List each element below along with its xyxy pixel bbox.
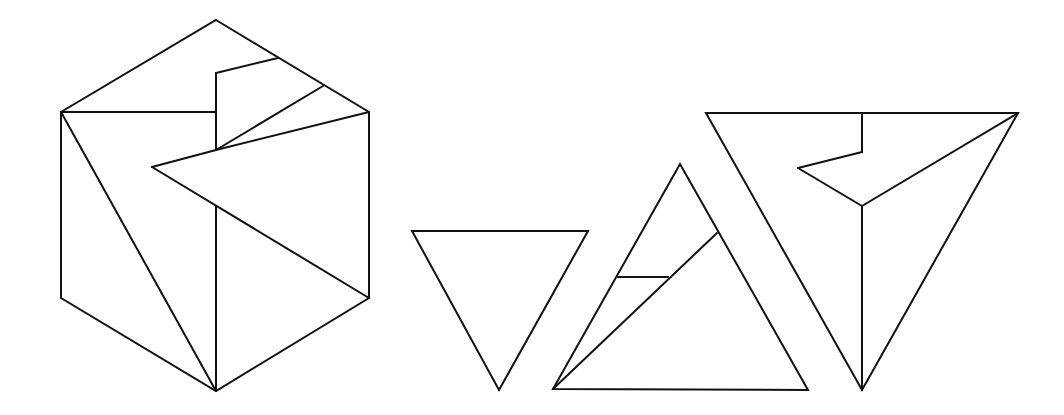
large-inverted-triangle-cut-line: [862, 113, 1018, 206]
hexagon-cut-line: [216, 86, 323, 150]
hexagon-cut-line: [216, 112, 369, 150]
hexagon-cut-line: [152, 167, 369, 298]
hexagon-cut-line: [216, 58, 278, 73]
hexagon-cut-line: [152, 150, 216, 167]
small-inverted-triangle-figure: [412, 231, 588, 390]
large-inverted-triangle-figure: [706, 113, 1018, 390]
middle-upright-triangle-cut-line: [553, 233, 717, 389]
hexagon-figure: [61, 20, 369, 391]
small-inverted-triangle-outline: [412, 231, 588, 390]
middle-upright-triangle-figure: [553, 164, 808, 390]
large-inverted-triangle-cut-line: [798, 168, 862, 206]
dissection-diagram: [0, 0, 1064, 415]
middle-upright-triangle-outline: [553, 164, 808, 390]
hexagon-cut-line: [61, 112, 216, 391]
large-inverted-triangle-cut-line: [798, 152, 862, 168]
